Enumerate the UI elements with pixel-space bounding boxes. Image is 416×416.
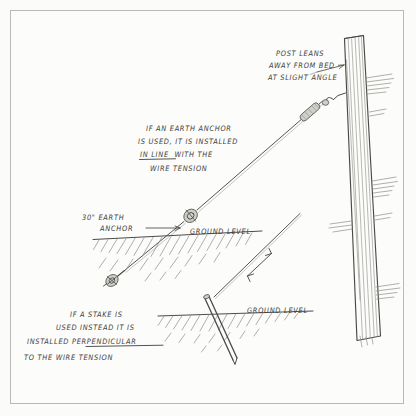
earth-anchor-label: 30" EARTH ANCHOR <box>82 213 180 233</box>
earth-anchor-note: IF AN EARTH ANCHOR IS USED, IT IS INSTAL… <box>138 124 238 173</box>
ground-line-lower <box>158 311 313 352</box>
earth-anchor-note-line-2: IS USED, IT IS INSTALLED <box>138 137 238 146</box>
post-note-line-2: AWAY FROM BED <box>268 61 335 70</box>
earth-anchor-note-line-4: WIRE TENSION <box>150 164 208 173</box>
stake-note-line-1: IF A STAKE IS <box>70 310 123 319</box>
earth-anchor-label-line-2: ANCHOR <box>99 224 133 233</box>
post-shading-hatches-left <box>329 221 352 232</box>
earth-anchor-note-line-1: IF AN EARTH ANCHOR <box>146 124 232 133</box>
ground-level-label-lower: GROUND LEVEL <box>247 306 308 315</box>
earth-anchor-note-line-3: IN LINE WITH THE <box>140 150 213 159</box>
ground-line-upper <box>93 231 262 281</box>
ground-level-label-upper: GROUND LEVEL <box>190 227 251 236</box>
soil-hatch-upper <box>94 233 253 281</box>
post-shading-hatches <box>366 74 400 299</box>
stake-note-line-2: USED INSTEAD IT IS <box>56 323 135 332</box>
post-note-line-1: POST LEANS <box>276 49 324 58</box>
earth-anchor-rod <box>103 271 124 289</box>
stake-note: IF A STAKE IS USED INSTEAD IT IS INSTALL… <box>24 310 163 362</box>
sketch-page: POST LEANS AWAY FROM BED AT SLIGHT ANGLE… <box>0 0 416 416</box>
post-leans-note: POST LEANS AWAY FROM BED AT SLIGHT ANGLE <box>267 49 344 82</box>
technical-sketch: POST LEANS AWAY FROM BED AT SLIGHT ANGLE… <box>0 0 416 416</box>
turnbuckle-at-post <box>299 93 346 122</box>
earth-anchor-label-line-1: 30" EARTH <box>82 213 124 222</box>
driven-stake <box>203 294 237 365</box>
post-note-line-3: AT SLIGHT ANGLE <box>267 73 338 82</box>
stake-note-line-4: TO THE WIRE TENSION <box>24 353 113 362</box>
leaning-post <box>329 36 400 348</box>
stake-note-line-3: INSTALLED PERPENDICULAR <box>27 337 137 346</box>
soil-hatch-lower <box>158 312 299 352</box>
